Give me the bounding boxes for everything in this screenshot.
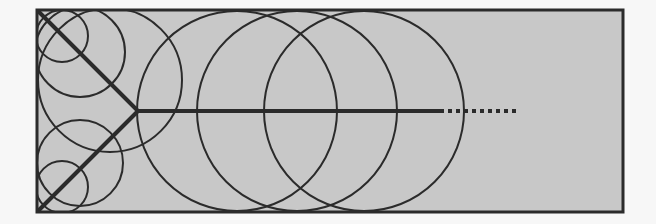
radiating-circles-diagram <box>0 0 656 224</box>
